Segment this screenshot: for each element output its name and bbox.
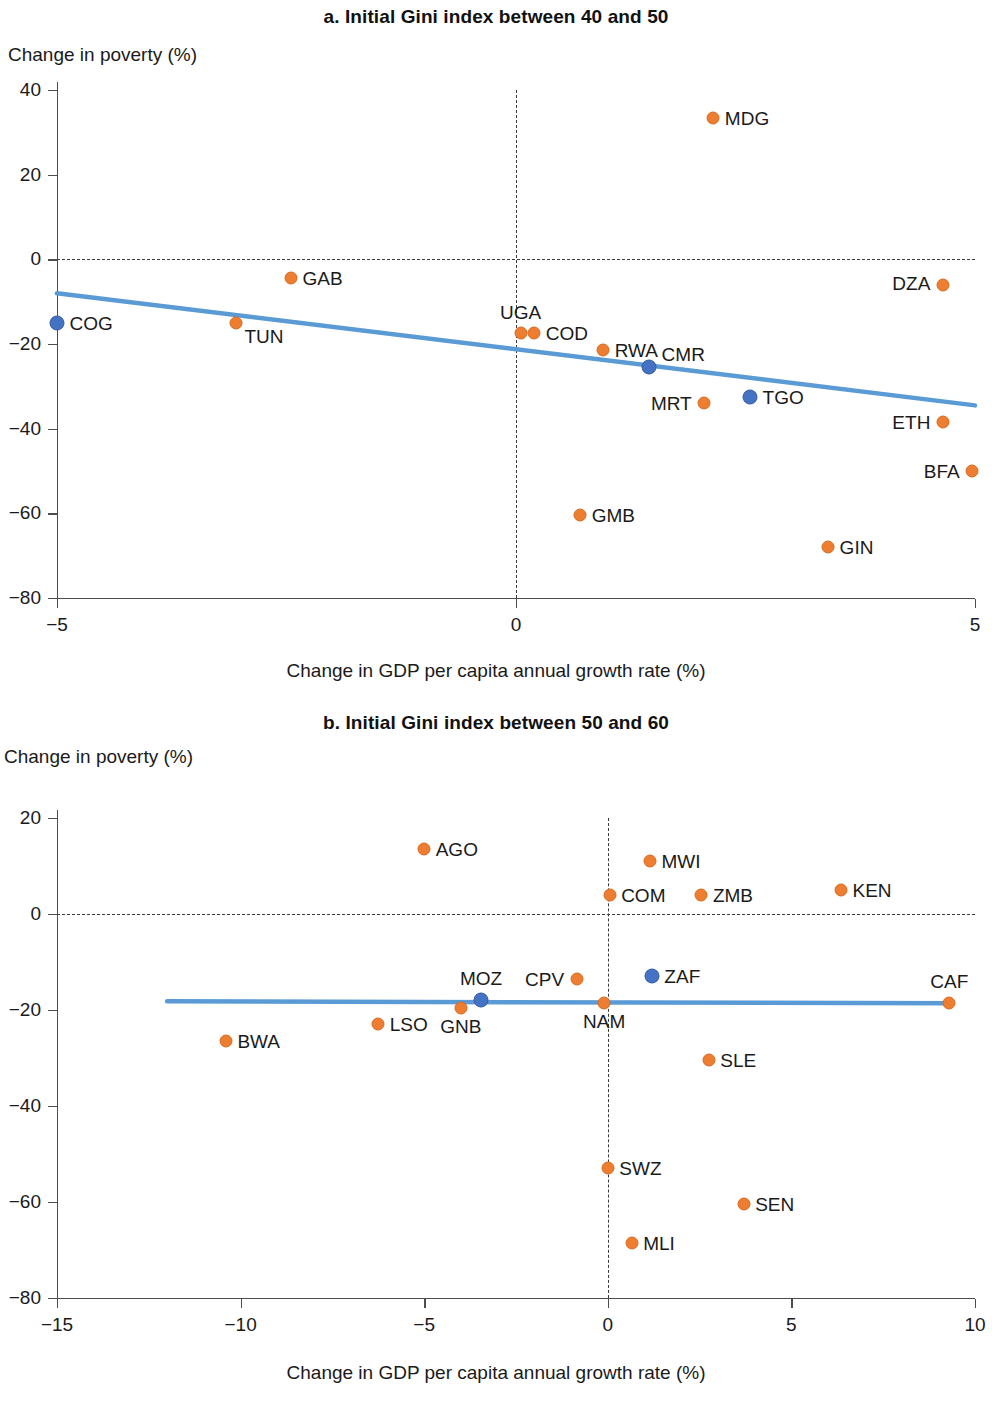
data-point-gab[interactable] — [285, 272, 298, 285]
data-point-label-cpv: CPV — [525, 969, 564, 991]
data-point-label-dza: DZA — [892, 273, 930, 295]
data-point-label-gin: GIN — [840, 537, 874, 559]
data-point-sen[interactable] — [737, 1198, 750, 1211]
data-point-zaf[interactable] — [644, 969, 659, 984]
data-point-label-ago: AGO — [436, 839, 478, 861]
data-point-ago[interactable] — [418, 843, 431, 856]
panel-a-x-axis-label: Change in GDP per capita annual growth r… — [0, 660, 992, 682]
data-point-swz[interactable] — [601, 1162, 614, 1175]
data-point-moz[interactable] — [474, 993, 489, 1008]
data-point-label-caf: CAF — [930, 971, 968, 993]
data-point-label-bfa: BFA — [924, 461, 960, 483]
data-point-zmb[interactable] — [695, 888, 708, 901]
data-point-label-mdg: MDG — [725, 108, 769, 130]
data-point-mrt[interactable] — [698, 397, 711, 410]
data-point-label-tgo: TGO — [763, 387, 804, 409]
trendline — [0, 0, 992, 704]
data-point-cpv[interactable] — [570, 972, 583, 985]
trendline — [0, 700, 992, 1404]
data-point-label-sle: SLE — [720, 1050, 756, 1072]
data-point-label-rwa: RWA — [615, 340, 658, 362]
panel-a-plot-area: 40200−20−40−60−80−505COGTUNGABUGACODRWAC… — [0, 0, 992, 700]
data-point-cog[interactable] — [50, 315, 65, 330]
data-point-mdg[interactable] — [707, 111, 720, 124]
data-point-tun[interactable] — [230, 316, 243, 329]
figure-root: a. Initial Gini index between 40 and 50 … — [0, 0, 992, 1404]
data-point-uga[interactable] — [514, 327, 527, 340]
data-point-label-swz: SWZ — [619, 1158, 661, 1180]
data-point-label-ken: KEN — [852, 880, 891, 902]
data-point-label-lso: LSO — [390, 1014, 428, 1036]
data-point-label-nam: NAM — [583, 1011, 625, 1033]
data-point-gin[interactable] — [822, 541, 835, 554]
data-point-bfa[interactable] — [966, 465, 979, 478]
data-point-label-moz: MOZ — [460, 968, 502, 990]
data-point-label-cmr: CMR — [662, 344, 705, 366]
data-point-label-mwi: MWI — [662, 851, 701, 873]
panel-b-x-axis-label: Change in GDP per capita annual growth r… — [0, 1362, 992, 1384]
data-point-label-mrt: MRT — [651, 393, 692, 415]
data-point-ken[interactable] — [834, 884, 847, 897]
data-point-cod[interactable] — [528, 327, 541, 340]
data-point-label-com: COM — [621, 885, 665, 907]
data-point-label-tun: TUN — [245, 326, 284, 348]
data-point-sle[interactable] — [702, 1054, 715, 1067]
data-point-label-sen: SEN — [755, 1194, 794, 1216]
data-point-bwa[interactable] — [219, 1035, 232, 1048]
panel-b-plot-area: 200−20−40−60−80−15−10−50510AGOMWICOMZMBK… — [0, 700, 992, 1404]
data-point-eth[interactable] — [936, 416, 949, 429]
data-point-com[interactable] — [603, 888, 616, 901]
data-point-tgo[interactable] — [743, 389, 758, 404]
data-point-label-gnb: GNB — [440, 1016, 481, 1038]
data-point-nam[interactable] — [598, 996, 611, 1009]
data-point-lso[interactable] — [372, 1018, 385, 1031]
data-point-label-gmb: GMB — [592, 505, 635, 527]
data-point-gnb[interactable] — [454, 1001, 467, 1014]
data-point-caf[interactable] — [943, 996, 956, 1009]
data-point-label-cod: COD — [546, 323, 588, 345]
data-point-gmb[interactable] — [574, 509, 587, 522]
data-point-label-zmb: ZMB — [713, 885, 753, 907]
data-point-dza[interactable] — [936, 278, 949, 291]
data-point-rwa[interactable] — [597, 344, 610, 357]
data-point-label-bwa: BWA — [237, 1031, 280, 1053]
data-point-cmr[interactable] — [642, 360, 657, 375]
data-point-mli[interactable] — [625, 1236, 638, 1249]
data-point-label-mli: MLI — [643, 1233, 675, 1255]
data-point-label-gab: GAB — [303, 268, 343, 290]
data-point-label-zaf: ZAF — [664, 966, 700, 988]
data-point-mwi[interactable] — [644, 855, 657, 868]
data-point-label-eth: ETH — [892, 412, 930, 434]
data-point-label-cog: COG — [70, 313, 113, 335]
panel-b: b. Initial Gini index between 50 and 60 … — [0, 700, 992, 1404]
data-point-label-uga: UGA — [500, 302, 541, 324]
panel-a: a. Initial Gini index between 40 and 50 … — [0, 0, 992, 700]
